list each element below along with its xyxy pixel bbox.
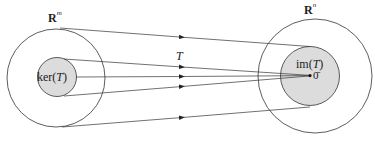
arrow-kernel-bottom	[64, 87, 182, 97]
image-label: im(T)	[296, 58, 323, 70]
kernel-label: ker(T)	[37, 71, 67, 83]
domain-label: Rm	[48, 12, 62, 24]
codomain-label: Rn	[304, 4, 316, 16]
arrow-kernel-mid	[76, 77, 182, 78]
zero-vector-dot	[308, 74, 311, 77]
arrow-kernel-top	[64, 59, 182, 67]
transformation-label: T	[176, 50, 183, 62]
arrow-bottom	[62, 118, 182, 128]
zero-vector-label: 0̄	[313, 70, 319, 81]
arrow-top	[60, 28, 182, 37]
mapping-arrows	[60, 28, 310, 127]
